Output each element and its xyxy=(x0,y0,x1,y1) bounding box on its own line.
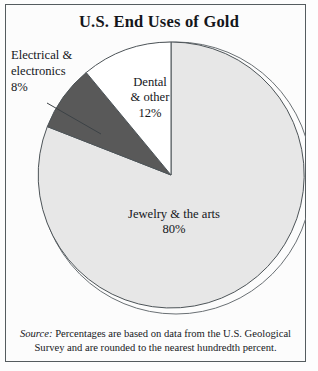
label-electrical-line1: Electrical & xyxy=(11,48,72,62)
label-jewelry-name: Jewelry & the arts xyxy=(128,207,220,221)
source-divider xyxy=(6,322,305,323)
label-dental-percent: 12% xyxy=(104,106,196,121)
source-body: Percentages are based on data from the U… xyxy=(34,328,291,353)
label-jewelry-arts: Jewelry & the arts 80% xyxy=(94,207,254,238)
label-dental-line1: Dental xyxy=(133,75,167,89)
gold-end-uses-figure: U.S. End Uses of Gold Electrical & elect… xyxy=(0,0,318,371)
label-dental-line2: & other xyxy=(131,90,170,104)
source-label: Source: xyxy=(20,328,53,339)
source-note: Source: Percentages are based on data fr… xyxy=(12,327,299,355)
label-electrical-line2: electronics xyxy=(11,64,66,78)
label-jewelry-percent: 80% xyxy=(94,222,254,237)
label-dental-other: Dental & other 12% xyxy=(104,75,196,121)
